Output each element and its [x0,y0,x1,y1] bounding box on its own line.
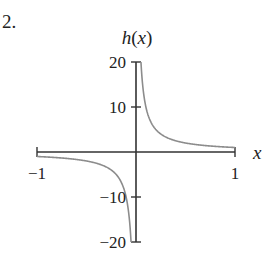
x-tick-label: −1 [28,164,46,183]
axes [37,62,235,242]
function-plot: 2010−10−20−11h(x)x [0,0,270,275]
curve-right-branch [141,62,235,148]
y-tick-label: 10 [109,98,126,117]
y-tick-label: 20 [109,53,126,72]
x-axis-label: x [252,142,262,163]
y-tick-label: −10 [99,188,126,207]
labels: 2010−10−20−11h(x)x [28,27,262,252]
y-tick-label: −20 [99,233,126,252]
x-tick-label: 1 [231,164,240,183]
y-axis-label: h(x) [122,27,153,49]
